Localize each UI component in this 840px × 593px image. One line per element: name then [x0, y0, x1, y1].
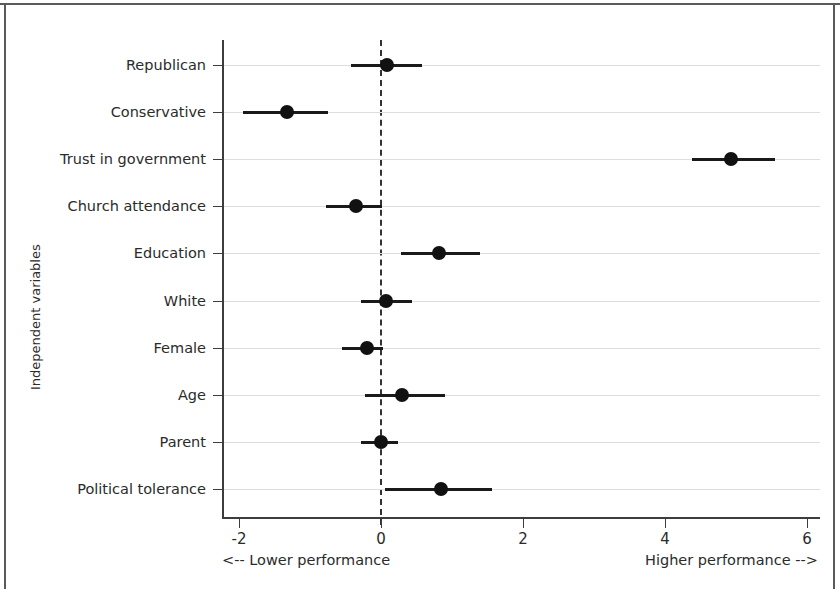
y-axis-tick	[213, 253, 223, 254]
y-axis-category-label: Church attendance	[0, 199, 206, 214]
coefficient-plot-figure: -20246RepublicanConservativeTrust in gov…	[0, 0, 840, 593]
x-axis-line	[222, 517, 820, 519]
x-axis-tick-label: 2	[493, 532, 553, 547]
point-estimate-marker	[349, 199, 363, 213]
y-axis-category-label: Republican	[0, 58, 206, 73]
y-axis-tick	[213, 395, 223, 396]
gridline	[224, 206, 820, 207]
y-axis-tick	[213, 301, 223, 302]
y-axis-category-label: Trust in government	[0, 152, 206, 167]
point-estimate-marker	[380, 58, 394, 72]
x-axis-tick-label: -2	[209, 532, 269, 547]
y-axis-tick	[213, 442, 223, 443]
point-estimate-marker	[280, 105, 294, 119]
point-estimate-marker	[724, 152, 738, 166]
x-axis-tick	[807, 519, 808, 528]
x-axis-tick-label: 0	[351, 532, 411, 547]
x-axis-tick-label: 6	[777, 532, 837, 547]
y-axis-tick	[213, 348, 223, 349]
plot-area: -20246RepublicanConservativeTrust in gov…	[0, 0, 840, 593]
y-axis-tick	[213, 65, 223, 66]
point-estimate-marker	[379, 294, 393, 308]
gridline	[224, 301, 820, 302]
point-estimate-marker	[374, 435, 388, 449]
gridline	[224, 65, 820, 66]
gridline	[224, 395, 820, 396]
x-axis-tick-label: 4	[635, 532, 695, 547]
point-estimate-marker	[432, 246, 446, 260]
gridline	[224, 253, 820, 254]
annotation-higher-performance: Higher performance -->	[645, 553, 818, 568]
y-axis-tick	[213, 206, 223, 207]
annotation-lower-performance: <-- Lower performance	[222, 553, 390, 568]
point-estimate-marker	[434, 482, 448, 496]
y-axis-title: Independent variables	[28, 244, 43, 390]
x-axis-tick	[239, 519, 240, 528]
point-estimate-marker	[360, 341, 374, 355]
y-axis-category-label: Conservative	[0, 105, 206, 120]
y-axis-category-label: Parent	[0, 435, 206, 450]
gridline	[224, 348, 820, 349]
y-axis-category-label: Political tolerance	[0, 482, 206, 497]
gridline	[224, 489, 820, 490]
point-estimate-marker	[395, 388, 409, 402]
y-axis-tick	[213, 159, 223, 160]
x-axis-tick	[381, 519, 382, 528]
x-axis-tick	[665, 519, 666, 528]
x-axis-tick	[523, 519, 524, 528]
gridline	[224, 442, 820, 443]
y-axis-tick	[213, 112, 223, 113]
y-axis-tick	[213, 489, 223, 490]
